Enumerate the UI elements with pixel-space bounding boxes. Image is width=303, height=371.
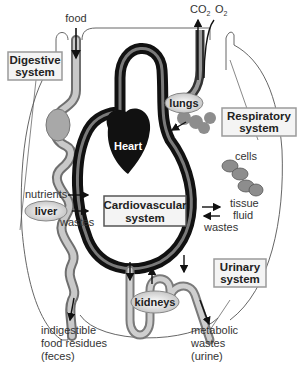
kidneys-label: kidneys bbox=[131, 291, 179, 313]
o2-label: O2 bbox=[215, 3, 228, 17]
cardiovascular-system-box: Cardiovascular system bbox=[103, 196, 187, 226]
svg-text:liver: liver bbox=[35, 205, 58, 217]
food-label: food bbox=[65, 12, 86, 24]
wastes-left-label: wastes bbox=[59, 216, 95, 228]
urine-label-line2: wastes bbox=[190, 337, 226, 349]
feces-label-line2: food residues bbox=[41, 337, 108, 349]
cells-label: cells bbox=[235, 150, 258, 162]
svg-text:kidneys: kidneys bbox=[135, 296, 176, 308]
urinary-system-box: Urinary system bbox=[214, 259, 266, 287]
svg-text:Respiratory: Respiratory bbox=[227, 110, 292, 122]
cells-cluster bbox=[222, 160, 263, 196]
svg-text:Urinary: Urinary bbox=[220, 261, 261, 273]
svg-text:Cardiovascular: Cardiovascular bbox=[103, 199, 187, 211]
o2-arrow bbox=[204, 20, 214, 78]
fluid-label: fluid bbox=[233, 209, 253, 221]
feces-label-line1: indigestible bbox=[41, 324, 96, 336]
lungs-organ bbox=[177, 111, 216, 134]
lungs-label: lungs bbox=[165, 93, 203, 113]
wastes-right-label: wastes bbox=[203, 221, 239, 233]
digestive-system-box: Digestive system bbox=[8, 52, 62, 80]
nutrients-label: nutrients bbox=[25, 188, 68, 200]
lungs-to-blood-arrow bbox=[172, 122, 186, 130]
svg-text:lungs: lungs bbox=[169, 97, 198, 109]
svg-text:system: system bbox=[15, 66, 55, 78]
svg-text:system: system bbox=[239, 122, 279, 134]
svg-text:system: system bbox=[220, 273, 260, 285]
tissue-label: tissue bbox=[230, 197, 259, 209]
organ-systems-diagram: Digestive system Respiratory system Card… bbox=[0, 0, 303, 371]
feces-label-line3: (feces) bbox=[41, 350, 75, 362]
urine-label-line3: (urine) bbox=[191, 350, 223, 362]
airway bbox=[178, 30, 200, 100]
respiratory-system-box: Respiratory system bbox=[222, 108, 296, 136]
urine-label-line1: metabolic bbox=[191, 324, 239, 336]
co2-label: CO2 bbox=[190, 3, 211, 17]
svg-text:Digestive: Digestive bbox=[9, 54, 60, 66]
heart-label: Heart bbox=[114, 140, 142, 152]
svg-text:system: system bbox=[125, 212, 165, 224]
